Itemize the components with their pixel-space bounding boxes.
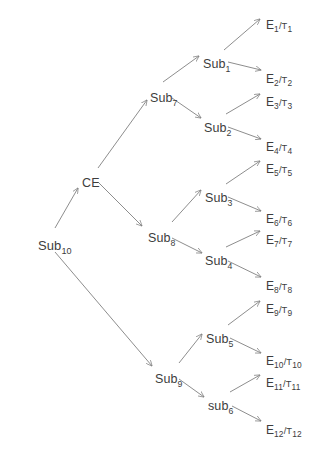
edges-group — [55, 19, 261, 421]
leaf-e-letter: E — [266, 95, 274, 109]
subscript: 5 — [229, 339, 234, 349]
leaf-e-letter: E — [266, 162, 274, 176]
tree-edge-sub1-to-e1 — [224, 19, 260, 50]
tree-diagram: Sub10CESub9Sub7Sub8Sub1Sub2Sub3Sub4Sub5s… — [0, 0, 322, 455]
node-label-text: sub — [208, 399, 228, 413]
subscript: 6 — [287, 218, 292, 228]
subscript: 3 — [228, 198, 233, 208]
tree-node-sub1[interactable]: Sub1 — [203, 58, 231, 71]
node-label-text: Sub — [203, 57, 226, 71]
tree-edge-sub6-to-e12 — [232, 406, 261, 421]
subscript: 8 — [171, 238, 176, 248]
tree-node-sub5[interactable]: Sub5 — [206, 333, 234, 346]
tree-leaf-e12[interactable]: E12/T12 — [266, 424, 302, 436]
tree-edge-sub9-to-sub6 — [179, 379, 204, 397]
tree-edge-sub4-to-e8 — [228, 261, 261, 277]
subscript: 3 — [287, 101, 292, 111]
tree-node-sub3[interactable]: Sub3 — [205, 192, 233, 205]
subscript: 6 — [228, 406, 233, 416]
node-label-text: Sub — [150, 91, 173, 105]
tree-edge-sub10-to-sub9 — [55, 252, 152, 366]
tree-edge-sub9-to-sub5 — [179, 334, 202, 363]
tree-leaf-e8[interactable]: E8/T8 — [266, 280, 292, 292]
tree-leaf-e4[interactable]: E4/T4 — [266, 141, 292, 153]
leaf-e-letter: E — [266, 302, 274, 316]
tree-node-ce[interactable]: CE — [82, 177, 100, 190]
node-label-text: CE — [82, 176, 100, 190]
leaf-e-letter: E — [266, 376, 274, 390]
tree-edge-sub5-to-e10 — [230, 338, 261, 353]
tree-leaf-e11[interactable]: E11/T11 — [266, 377, 300, 389]
tree-node-sub10[interactable]: Sub10 — [38, 239, 72, 252]
leaf-e-letter: E — [266, 279, 274, 293]
node-label-text: Sub — [205, 254, 228, 268]
leaf-e-letter: E — [266, 140, 274, 154]
tree-edge-sub7-to-sub1 — [163, 56, 199, 82]
tree-node-sub9[interactable]: Sub9 — [155, 373, 183, 386]
leaf-e-letter: E — [266, 423, 274, 437]
tree-node-sub4[interactable]: Sub4 — [205, 255, 233, 268]
tree-leaf-e5[interactable]: E5/T5 — [266, 163, 292, 175]
tree-edge-sub6-to-e11 — [230, 375, 260, 392]
subscript: 11 — [274, 382, 283, 392]
leaf-e-letter: E — [266, 18, 274, 32]
tree-edge-sub10-to-ce — [55, 188, 78, 228]
subscript: 5 — [287, 168, 292, 178]
tree-leaf-e1[interactable]: E1/T1 — [266, 19, 292, 31]
node-label-text: Sub — [38, 238, 61, 253]
subscript: 12 — [274, 429, 284, 439]
leaf-t-letter: /T — [284, 426, 293, 436]
tree-leaf-e2[interactable]: E2/T2 — [266, 73, 292, 85]
tree-node-sub6[interactable]: sub6 — [208, 400, 233, 413]
tree-edge-ce-to-sub8 — [98, 182, 142, 226]
subscript: 8 — [287, 285, 292, 295]
subscript: 12 — [292, 429, 302, 439]
tree-leaf-e7[interactable]: E7/T7 — [266, 234, 292, 246]
leaf-e-letter: E — [266, 212, 274, 226]
node-label-text: Sub — [155, 372, 178, 386]
tree-leaf-e6[interactable]: E6/T6 — [266, 213, 292, 225]
tree-leaf-e9[interactable]: E9/T9 — [266, 303, 292, 315]
tree-edge-sub5-to-e9 — [228, 301, 260, 325]
tree-edge-sub2-to-e4 — [228, 127, 261, 139]
subscript: 1 — [287, 24, 292, 34]
subscript: 2 — [227, 128, 232, 138]
node-label-text: Sub — [148, 231, 171, 245]
tree-edge-sub3-to-e5 — [226, 161, 260, 184]
node-label-text: Sub — [204, 121, 227, 135]
tree-edge-sub8-to-sub4 — [172, 238, 202, 253]
subscript: 11 — [292, 382, 301, 392]
node-label-text: Sub — [205, 191, 228, 205]
tree-leaf-e10[interactable]: E10/T10 — [266, 355, 302, 367]
leaf-t-letter: /T — [284, 357, 293, 367]
leaf-t-letter: /T — [283, 379, 292, 389]
tree-node-sub2[interactable]: Sub2 — [204, 122, 232, 135]
subscript: 7 — [287, 239, 292, 249]
subscript: 9 — [178, 379, 183, 389]
leaf-e-letter: E — [266, 233, 274, 247]
leaf-e-letter: E — [266, 354, 274, 368]
tree-edge-sub4-to-e7 — [226, 231, 260, 247]
tree-node-sub8[interactable]: Sub8 — [148, 232, 176, 245]
tree-edge-sub3-to-e6 — [228, 197, 261, 211]
subscript: 4 — [228, 261, 233, 271]
subscript: 10 — [292, 360, 302, 370]
subscript: 10 — [274, 360, 284, 370]
subscript: 1 — [226, 64, 231, 74]
tree-edge-sub2-to-e3 — [226, 94, 260, 114]
tree-leaf-e3[interactable]: E3/T3 — [266, 96, 292, 108]
subscript: 10 — [61, 246, 71, 256]
subscript: 2 — [287, 78, 292, 88]
subscript: 9 — [287, 308, 292, 318]
tree-edge-sub1-to-e2 — [228, 62, 261, 70]
subscript: 4 — [287, 146, 292, 156]
tree-edge-ce-to-sub7 — [98, 100, 147, 168]
node-label-text: Sub — [206, 332, 229, 346]
tree-edge-sub8-to-sub3 — [172, 190, 201, 222]
subscript: 7 — [173, 98, 178, 108]
tree-node-sub7[interactable]: Sub7 — [150, 92, 178, 105]
leaf-e-letter: E — [266, 72, 274, 86]
